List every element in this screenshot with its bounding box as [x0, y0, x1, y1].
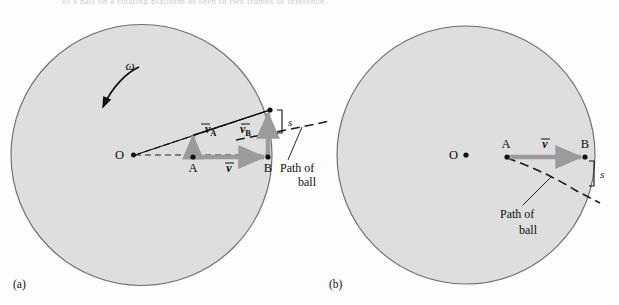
point-B-label-a: B — [264, 161, 272, 175]
deflection-label-b: s — [600, 168, 604, 180]
point-B-label-b: B — [581, 137, 589, 151]
point-A-dot-b — [504, 154, 509, 159]
point-O-label-b: O — [449, 148, 458, 162]
panel-label-a: (a) — [13, 278, 26, 291]
deflection-bracket-a — [277, 110, 282, 133]
point-B-dot-b — [582, 154, 587, 159]
path-leader-line-a — [288, 127, 302, 160]
path-label-line1-a: Path of — [280, 161, 314, 175]
panel-label-b: (b) — [329, 278, 343, 291]
path-label-line1-b: Path of — [500, 207, 534, 221]
figure-canvas: O A B ω vA vB v s Path of ball (a) — [0, 0, 619, 305]
point-B-dot-a — [265, 154, 270, 159]
point-O-dot-b — [463, 152, 468, 157]
path-label-line2-b: ball — [519, 223, 538, 237]
panel-b: O A B v s Path of ball (b) — [329, 26, 604, 291]
figure-root: of a ball on a rotating platform as seen… — [0, 0, 619, 305]
point-O-dot-a — [131, 153, 136, 158]
omega-label-a: ω — [125, 58, 134, 73]
point-A-label-a: A — [188, 161, 197, 175]
deflection-label-a: s — [288, 116, 292, 128]
path-label-line2-a: ball — [298, 175, 317, 189]
vector-vA-subscript: A — [210, 128, 217, 138]
point-A-label-b: A — [501, 137, 510, 151]
point-apex-dot-a — [267, 107, 272, 112]
point-O-label-a: O — [115, 148, 124, 162]
point-A-dot-a — [190, 154, 195, 159]
vector-vB-subscript: B — [245, 128, 251, 138]
panel-a: O A B ω vA vB v s Path of ball (a) — [11, 25, 330, 292]
